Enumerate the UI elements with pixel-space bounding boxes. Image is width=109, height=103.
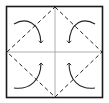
origami-fold-diagram xyxy=(0,0,109,103)
